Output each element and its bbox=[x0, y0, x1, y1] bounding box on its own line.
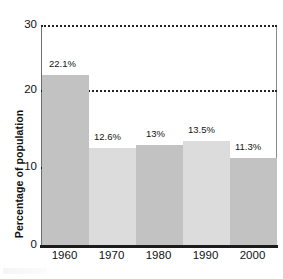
x-axis-tick-labels: 1960 1970 1980 1990 2000 bbox=[41, 250, 277, 270]
plot-area: 22.1% 12.6% 13% 13.5% 11.3% bbox=[41, 25, 277, 245]
y-tick-label-0: 0 bbox=[3, 239, 37, 251]
bar-1980[interactable] bbox=[136, 145, 183, 245]
x-tick-label-1960: 1960 bbox=[41, 250, 88, 262]
x-tick-label-2000: 2000 bbox=[229, 250, 276, 262]
bar-value-label-1980: 13% bbox=[146, 128, 165, 139]
y-tick-label-20: 20 bbox=[3, 84, 37, 96]
y-tick-label-30: 30 bbox=[3, 19, 37, 31]
x-tick-label-1980: 1980 bbox=[135, 250, 182, 262]
bar-value-label-1990: 13.5% bbox=[188, 124, 215, 135]
y-tick-label-10: 10 bbox=[3, 161, 37, 173]
bar-chart-figure: Percentage of population 30 20 10 0 22.1… bbox=[0, 0, 283, 279]
y-axis-tick-labels: 30 20 10 0 bbox=[0, 0, 37, 279]
bar-value-label-1970: 12.6% bbox=[94, 131, 121, 142]
scan-artifact bbox=[3, 268, 47, 274]
bar-1970[interactable] bbox=[89, 148, 136, 245]
bar-1960[interactable] bbox=[42, 75, 89, 245]
bar-1990[interactable] bbox=[183, 141, 230, 245]
bar-2000[interactable] bbox=[230, 158, 277, 245]
x-tick-label-1970: 1970 bbox=[88, 250, 135, 262]
x-tick-label-1990: 1990 bbox=[182, 250, 229, 262]
x-axis-line bbox=[40, 245, 278, 248]
bar-value-label-2000: 11.3% bbox=[235, 141, 261, 152]
bar-value-label-1960: 22.1% bbox=[49, 58, 76, 69]
